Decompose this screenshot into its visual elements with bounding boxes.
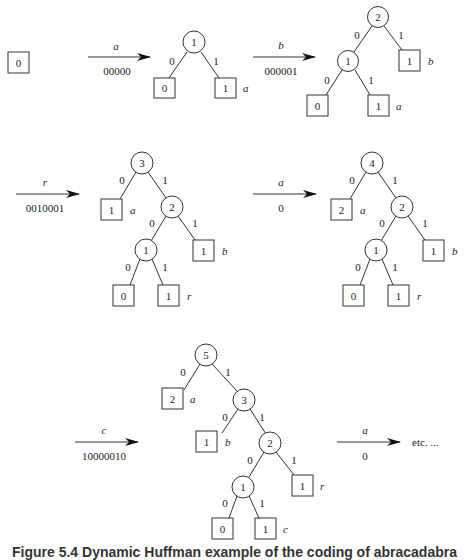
- transition-code: 00000: [103, 65, 131, 77]
- leaf-symbol: r: [320, 480, 325, 492]
- leaf-symbol: b: [428, 55, 434, 67]
- edge-label: 0: [222, 411, 228, 423]
- transition-code: 0: [362, 450, 368, 462]
- leaf-symbol: a: [190, 393, 196, 405]
- leaf-weight: 1: [407, 55, 413, 67]
- edge-label: 0: [125, 261, 131, 273]
- node-weight: 2: [375, 11, 381, 23]
- leaf-weight: 1: [201, 245, 207, 257]
- edge-label: 1: [213, 55, 219, 67]
- edge-label: 1: [192, 217, 198, 229]
- leaf-weight: 1: [300, 480, 306, 492]
- edge-label: 0: [354, 29, 360, 41]
- figure-caption: Figure 5.4 Dynamic Huffman example of th…: [12, 544, 457, 560]
- leaf-weight: 1: [431, 245, 437, 257]
- leaf-symbol: a: [130, 204, 136, 216]
- leaf-weight: 1: [109, 204, 115, 216]
- edge-label: 0: [119, 174, 125, 186]
- leaf-symbol: b: [225, 436, 231, 448]
- transition-arrow: c 10000010: [75, 424, 138, 462]
- edge-label: 0: [379, 217, 385, 229]
- edge-label: 0: [222, 497, 228, 509]
- initial-tree: 0: [8, 52, 29, 73]
- node-weight: 2: [169, 201, 175, 213]
- node-weight: 3: [241, 394, 247, 406]
- leaf-weight: 2: [339, 204, 345, 216]
- node-weight: 5: [203, 349, 209, 361]
- leaf-weight: 0: [220, 523, 226, 535]
- node-weight: 1: [240, 481, 246, 493]
- node-weight: 2: [267, 437, 273, 449]
- leaf-weight: 1: [204, 436, 210, 448]
- edge-label: 0: [324, 74, 330, 86]
- transition-symbol: c: [102, 424, 107, 436]
- leaf-weight: 0: [351, 290, 357, 302]
- tree-1: 1 0 1 0 1 a: [154, 31, 249, 98]
- leaf-symbol: b: [222, 245, 228, 257]
- tree-5: 5 0 1 2 a 3 0 1 1 b 2 0 1 1 r 1 0 1 0 1 …: [162, 344, 325, 539]
- transition-arrow: a 0: [337, 424, 400, 462]
- leaf-weight: 0: [315, 100, 321, 112]
- transition-code: 0: [278, 202, 284, 214]
- leaf-symbol: b: [452, 245, 458, 257]
- node-weight: 3: [139, 157, 145, 169]
- leaf-weight: 0: [162, 82, 168, 94]
- edge-label: 0: [149, 217, 155, 229]
- leaf-weight: 1: [376, 100, 382, 112]
- edge-label: 1: [162, 174, 168, 186]
- transition-symbol: r: [43, 176, 48, 188]
- edge-label: 1: [398, 29, 404, 41]
- node-weight: 1: [143, 244, 149, 256]
- leaf-weight: 1: [396, 290, 402, 302]
- leaf-weight: 0: [16, 57, 22, 69]
- node-weight: 4: [369, 157, 375, 169]
- edge-label: 0: [169, 55, 175, 67]
- transition-arrow: b 000001: [253, 39, 315, 77]
- node-weight: 1: [345, 55, 351, 67]
- leaf-weight: 1: [263, 523, 269, 535]
- edge-label: 0: [355, 261, 361, 273]
- edge-label: 0: [349, 174, 355, 186]
- leaf-weight: 1: [166, 290, 172, 302]
- leaf-symbol: a: [360, 204, 366, 216]
- tree-4: 4 0 1 2 a 2 0 1 1 b 1 0 1 0 1 r: [331, 152, 458, 306]
- edge-label: 1: [422, 217, 428, 229]
- edge-label: 1: [259, 497, 265, 509]
- leaf-symbol: a: [243, 82, 249, 94]
- transition-symbol: b: [278, 39, 284, 51]
- edge-label: 1: [162, 261, 168, 273]
- node-weight: 1: [191, 36, 197, 48]
- transition-symbol: a: [113, 40, 119, 52]
- transition-symbol: a: [278, 176, 284, 188]
- tree-3: 3 0 1 1 a 2 0 1 1 b 1 0 1 0 1 r: [101, 152, 228, 306]
- edge-label: 1: [291, 454, 297, 466]
- leaf-symbol: a: [396, 100, 402, 112]
- node-weight: 1: [373, 244, 379, 256]
- transition-code: 000001: [265, 65, 298, 77]
- leaf-weight: 2: [170, 393, 176, 405]
- transition-symbol: a: [362, 424, 368, 436]
- node-weight: 2: [399, 201, 405, 213]
- transition-arrow: a 00000: [88, 40, 150, 77]
- leaf-weight: 0: [121, 290, 127, 302]
- edge-label: 1: [392, 261, 398, 273]
- transition-arrow: r 0010001: [16, 176, 79, 214]
- leaf-symbol: r: [187, 290, 192, 302]
- leaf-weight: 1: [223, 82, 229, 94]
- edge-label: 0: [247, 454, 253, 466]
- transition-arrow: a 0: [253, 176, 316, 214]
- tree-2: 2 0 1 1 1 b 0 1 0 1 a: [307, 7, 434, 117]
- transition-code: 10000010: [82, 450, 127, 462]
- edge-label: 1: [225, 366, 231, 378]
- edge-label: 1: [368, 74, 374, 86]
- transition-code: 0010001: [26, 202, 65, 214]
- edge-label: 1: [392, 174, 398, 186]
- etc-label: etc. ...: [412, 436, 439, 448]
- edge-label: 0: [180, 366, 186, 378]
- leaf-symbol: c: [283, 523, 288, 535]
- edge-label: 1: [259, 411, 265, 423]
- leaf-symbol: r: [417, 290, 422, 302]
